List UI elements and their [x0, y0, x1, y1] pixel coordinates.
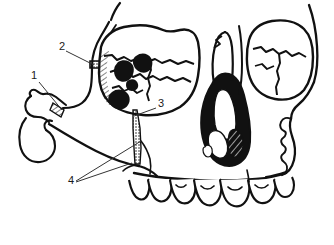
left-zygomatic-maxillary-body — [99, 25, 200, 115]
callout-label-4: 4 — [68, 174, 74, 186]
callout-label-1: 1 — [31, 69, 37, 81]
callout-label-3: 3 — [158, 97, 164, 109]
right-orbit — [247, 20, 313, 99]
skull-diagram-svg: 1 2 3 4 — [0, 0, 334, 245]
anatomical-figure: 1 2 3 4 — [0, 0, 334, 245]
callout-label-2: 2 — [59, 40, 65, 52]
